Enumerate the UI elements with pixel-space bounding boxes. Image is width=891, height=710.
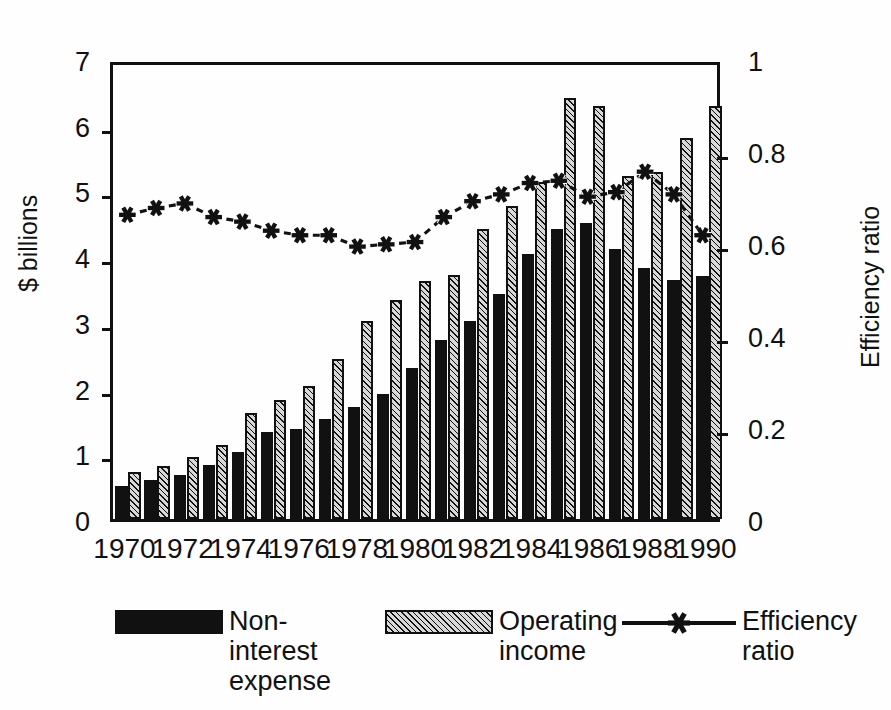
- bar-group: [144, 65, 169, 519]
- bar-group: [464, 65, 489, 519]
- bar-operating-income: [128, 472, 140, 519]
- x-axis-ticklabel: 1990: [674, 535, 736, 563]
- bar-group: [493, 65, 518, 519]
- y-axis-right-ticklabel: 0.8: [748, 141, 786, 168]
- bar-non-interest-expense: [696, 276, 708, 519]
- legend-label-operating-income: Operating income: [499, 606, 618, 666]
- y-axis-right-ticklabel: 0: [748, 509, 763, 536]
- bar-group: [406, 65, 431, 519]
- bar-group: [696, 65, 721, 519]
- bar-non-interest-expense: [435, 340, 447, 519]
- bar-group: [551, 65, 576, 519]
- bar-non-interest-expense: [144, 480, 156, 519]
- y-axis-left-title: $ billions: [14, 195, 43, 292]
- legend-item-efficiency-ratio[interactable]: Efficiency ratio: [620, 606, 857, 666]
- bar-operating-income: [274, 400, 286, 519]
- bar-non-interest-expense: [667, 280, 679, 519]
- bar-operating-income: [361, 321, 373, 519]
- bar-operating-income: [709, 106, 721, 519]
- bar-operating-income: [593, 106, 605, 519]
- y-axis-left-ticklabel: 3: [46, 311, 90, 338]
- y-axis-right-tick: [717, 433, 728, 436]
- y-axis-left-tick: [102, 196, 113, 199]
- bar-group: [580, 65, 605, 519]
- bar-group: [261, 65, 286, 519]
- y-axis-left-ticklabel: 0: [46, 509, 90, 536]
- hatched-gray-swatch-icon: [385, 610, 493, 634]
- bar-group: [348, 65, 373, 519]
- bar-operating-income: [622, 176, 634, 519]
- y-axis-right-ticklabel: 0.4: [748, 325, 786, 352]
- bar-non-interest-expense: [464, 321, 476, 519]
- legend-label-efficiency-ratio: Efficiency ratio: [742, 606, 857, 666]
- y-axis-left-ticklabel: 1: [46, 443, 90, 470]
- y-axis-left-tick: [102, 328, 113, 331]
- bar-non-interest-expense: [493, 294, 505, 519]
- x-axis-ticklabel: 1988: [616, 535, 678, 563]
- plot-area: 1970: 0.671971: 0.6851972: 0.6951973: 0.…: [110, 62, 720, 522]
- bar-operating-income: [419, 281, 431, 519]
- bar-group: [609, 65, 634, 519]
- bar-non-interest-expense: [551, 229, 563, 519]
- bar-group: [638, 65, 663, 519]
- y-axis-left-tick: [102, 394, 113, 397]
- bar-non-interest-expense: [406, 368, 418, 519]
- bar-operating-income: [448, 275, 460, 519]
- x-axis-ticklabel: 1972: [151, 535, 213, 563]
- bar-operating-income: [564, 98, 576, 519]
- bar-group: [290, 65, 315, 519]
- y-axis-left-tick: [102, 459, 113, 462]
- y-axis-left-ticklabel: 5: [46, 180, 90, 207]
- y-axis-right-ticklabel: 0.6: [748, 233, 786, 260]
- bar-group: [115, 65, 140, 519]
- x-axis-ticklabel: 1978: [326, 535, 388, 563]
- bar-operating-income: [680, 138, 692, 519]
- bar-non-interest-expense: [319, 419, 331, 519]
- bar-group: [319, 65, 344, 519]
- y-axis-left-ticklabel: 6: [46, 114, 90, 141]
- bar-operating-income: [245, 413, 257, 519]
- bar-group: [522, 65, 547, 519]
- bar-non-interest-expense: [377, 394, 389, 519]
- y-axis-right-ticklabel: 1: [748, 49, 763, 76]
- bars-layer: [113, 65, 717, 519]
- bar-group: [203, 65, 228, 519]
- dashed-line-asterisk-marker-icon: [620, 607, 738, 639]
- bar-non-interest-expense: [290, 429, 302, 519]
- y-axis-right-tick: [717, 157, 728, 160]
- bar-operating-income: [651, 172, 663, 519]
- chart-legend: Non- interest expense Operating income E…: [0, 600, 891, 700]
- bar-group: [667, 65, 692, 519]
- bar-operating-income: [506, 206, 518, 519]
- legend-label-non-interest-expense: Non- interest expense: [229, 606, 331, 697]
- chart-canvas: $ billions Efficiency ratio 01234567 00.…: [0, 0, 891, 710]
- x-axis-ticklabel: 1986: [558, 535, 620, 563]
- bar-operating-income: [187, 457, 199, 519]
- bar-non-interest-expense: [638, 268, 650, 519]
- y-axis-left-tick: [102, 131, 113, 134]
- bar-operating-income: [157, 466, 169, 519]
- bar-operating-income: [332, 359, 344, 519]
- x-axis-ticklabel: 1980: [384, 535, 446, 563]
- solid-black-swatch-icon: [115, 610, 223, 634]
- legend-item-non-interest-expense[interactable]: Non- interest expense: [115, 606, 331, 697]
- bar-non-interest-expense: [115, 486, 127, 519]
- bar-non-interest-expense: [522, 254, 534, 519]
- x-axis-ticklabel: 1984: [500, 535, 562, 563]
- x-axis-ticklabel: 1974: [210, 535, 272, 563]
- bar-non-interest-expense: [261, 432, 273, 519]
- y-axis-left-tick: [102, 262, 113, 265]
- bar-non-interest-expense: [580, 223, 592, 519]
- bar-operating-income: [303, 386, 315, 519]
- y-axis-right-tick: [717, 341, 728, 344]
- bar-operating-income: [477, 229, 489, 519]
- x-axis-ticklabel: 1976: [268, 535, 330, 563]
- bar-group: [232, 65, 257, 519]
- y-axis-left-ticklabel: 7: [46, 49, 90, 76]
- bar-operating-income: [390, 300, 402, 519]
- y-axis-right-ticklabel: 0.2: [748, 417, 786, 444]
- y-axis-right-title: Efficiency ratio: [856, 206, 885, 368]
- bar-operating-income: [216, 445, 228, 519]
- bar-non-interest-expense: [203, 465, 215, 519]
- legend-item-operating-income[interactable]: Operating income: [385, 606, 618, 666]
